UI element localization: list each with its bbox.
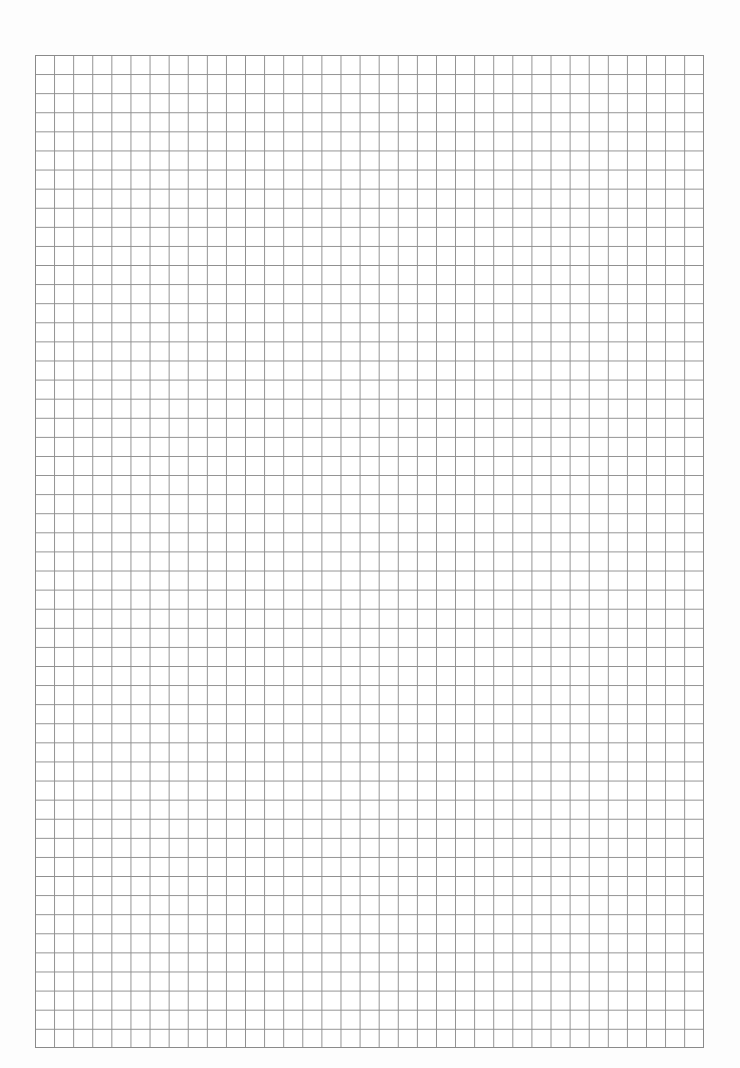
grid-paper xyxy=(35,55,704,1048)
